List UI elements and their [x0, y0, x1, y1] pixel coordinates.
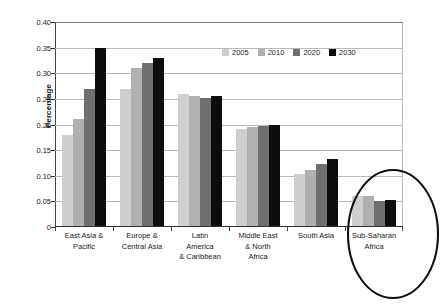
- x-axis-line: [55, 226, 403, 227]
- x-axis-category-label: Middle East& NorthAfrica: [229, 231, 287, 263]
- legend-swatch-icon: [293, 49, 300, 56]
- legend-item-2030: 2030: [329, 48, 356, 57]
- bar-2030: [269, 125, 280, 228]
- bar-2020: [200, 98, 211, 227]
- bar-2020: [142, 63, 153, 227]
- bar-2020: [316, 164, 327, 227]
- bar-2010: [305, 170, 316, 227]
- legend-item-2020: 2020: [293, 48, 320, 57]
- bar-2030: [327, 159, 338, 227]
- y-axis-tick-label: 0: [19, 223, 51, 232]
- bar-2010: [131, 68, 142, 227]
- bar-2030: [153, 58, 164, 227]
- bar-2005: [294, 174, 305, 227]
- y-axis-tick-label: 0.10: [19, 171, 51, 180]
- bar-group: [113, 22, 171, 227]
- x-axis-category-label: Europe &Central Asia: [113, 231, 171, 263]
- legend-label: 2020: [303, 48, 320, 57]
- bar-2020: [258, 126, 269, 227]
- y-axis-tick-label: 0.30: [19, 69, 51, 78]
- x-axis-category-label: LatinAmerica& Caribbean: [171, 231, 229, 263]
- legend-swatch-icon: [258, 49, 265, 56]
- bar-group-bars: [55, 22, 113, 227]
- y-axis-tick-label: 0.35: [19, 43, 51, 52]
- legend-swatch-icon: [222, 49, 229, 56]
- y-axis-tick-label: 0.05: [19, 197, 51, 206]
- x-axis-category-label: East Asia &Pacific: [55, 231, 113, 263]
- bar-group-bars: [171, 22, 229, 227]
- legend-label: 2010: [268, 48, 285, 57]
- y-axis-tick-label: 0.40: [19, 18, 51, 27]
- bar-chart: Percentage 00.050.100.150.200.250.300.35…: [0, 0, 447, 308]
- bar-group-bars: [113, 22, 171, 227]
- bar-group: [55, 22, 113, 227]
- bar-2005: [352, 196, 363, 227]
- bar-group: [171, 22, 229, 227]
- bar-2020: [84, 89, 95, 227]
- bar-2005: [236, 129, 247, 227]
- chart-legend: 2005201020202030: [222, 48, 356, 57]
- bar-2010: [189, 96, 200, 227]
- bar-2005: [120, 89, 131, 227]
- x-axis-category-labels: East Asia &PacificEurope &Central AsiaLa…: [55, 231, 403, 263]
- x-axis-category-label: Sub-SaharanAfrica: [345, 231, 403, 263]
- y-axis-tick-label: 0.25: [19, 94, 51, 103]
- legend-item-2010: 2010: [258, 48, 285, 57]
- bar-2005: [62, 135, 73, 227]
- bar-2010: [363, 196, 374, 227]
- bar-2010: [247, 127, 258, 227]
- bar-2005: [178, 94, 189, 227]
- x-axis-category-label: South Asia: [287, 231, 345, 263]
- legend-label: 2030: [339, 48, 356, 57]
- legend-label: 2005: [232, 48, 249, 57]
- bar-2020: [374, 201, 385, 227]
- bar-2030: [385, 200, 396, 227]
- bar-2010: [73, 119, 84, 227]
- y-axis-tick-label: 0.20: [19, 120, 51, 129]
- bar-2030: [211, 96, 222, 227]
- legend-swatch-icon: [329, 49, 336, 56]
- y-axis-tick-label: 0.15: [19, 146, 51, 155]
- bar-2030: [95, 48, 106, 227]
- legend-item-2005: 2005: [222, 48, 249, 57]
- y-axis-tick-labels: 00.050.100.150.200.250.300.350.40: [18, 22, 51, 227]
